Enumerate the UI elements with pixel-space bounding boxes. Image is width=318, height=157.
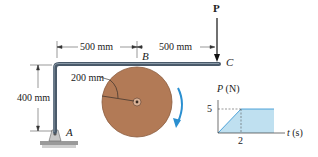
graph-x-var: t [287,127,290,138]
dim-vertical-label: 400 mm [17,93,50,103]
graph-y-tick: 5 [207,104,212,114]
point-c-label: C [226,57,233,68]
point-a-label: A [66,127,73,138]
rotation-arrow-icon [173,88,182,128]
graph-y-unit: (N) [226,83,240,94]
force-arrow-icon [214,18,220,62]
force-time-graph [218,100,285,133]
force-label: P [213,3,220,14]
graph-y-var: P [217,83,223,94]
graph-y-label: P (N) [217,84,240,94]
graph-x-unit: (s) [292,127,303,138]
graph-x-tick: 2 [238,136,243,146]
dim-radius-label: 200 mm [71,73,104,83]
dim-ab-label: 500 mm [80,42,113,52]
dim-bc-label: 500 mm [159,42,192,52]
disk [100,67,172,137]
point-b-label: B [142,51,149,62]
graph-x-label: t (s) [287,128,303,138]
diagram-canvas [0,0,318,157]
